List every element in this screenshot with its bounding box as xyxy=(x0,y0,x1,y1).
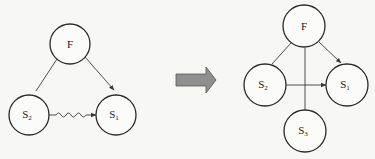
right-arrow-icon xyxy=(176,67,216,93)
node-f: F xyxy=(283,5,325,47)
edge-f-s2 xyxy=(272,43,291,64)
svg-text:F: F xyxy=(301,20,307,32)
edge-f-s1 xyxy=(85,57,114,90)
node-s1: S1 xyxy=(96,95,136,135)
edge-f-s1 xyxy=(319,42,341,63)
node-s3: S3 xyxy=(284,110,326,152)
node-s2: S2 xyxy=(244,64,286,106)
edge-s2-s1-wavy xyxy=(49,113,96,117)
svg-text:F: F xyxy=(67,38,73,50)
edge-f-s2 xyxy=(36,59,57,91)
before-diagram: F S2 S1 xyxy=(9,24,136,135)
after-diagram: F S2 S1 S3 xyxy=(244,5,368,152)
diagram-canvas: F S2 S1 F S2 S1 xyxy=(0,0,375,159)
node-f: F xyxy=(50,24,90,64)
node-s1: S1 xyxy=(326,64,368,106)
node-s2: S2 xyxy=(9,95,49,135)
